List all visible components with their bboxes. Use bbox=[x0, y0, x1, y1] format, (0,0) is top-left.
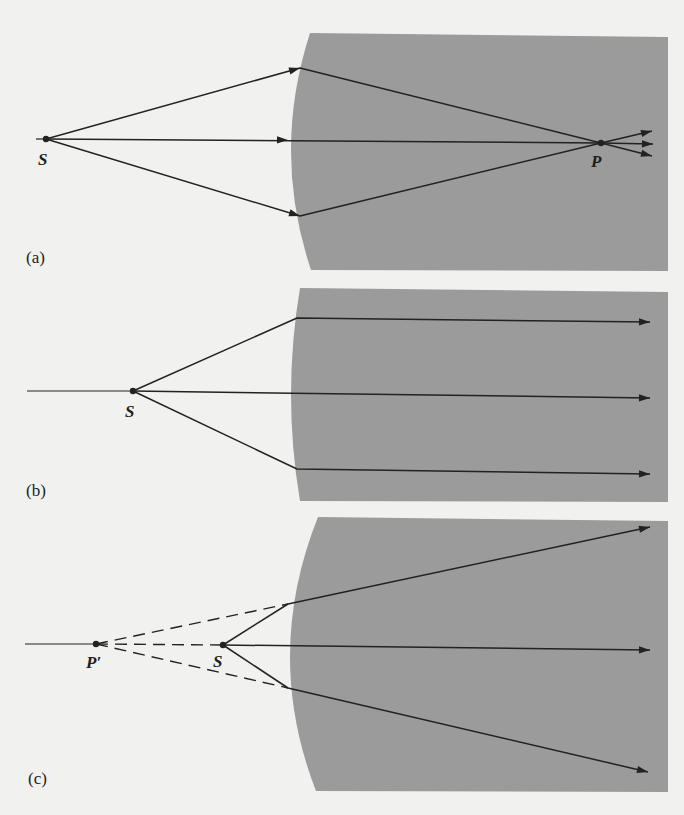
medium-region-c bbox=[290, 517, 668, 792]
refraction-figure: (a) S P (b) S (c) P′ S bbox=[0, 0, 684, 815]
point-label-p-prime-c: P′ bbox=[86, 653, 101, 673]
point-label-s-c: S bbox=[213, 652, 222, 672]
point-p-a bbox=[598, 140, 604, 146]
medium-region-a bbox=[291, 33, 668, 271]
panel-label-c: (c) bbox=[28, 769, 47, 789]
panel-label-b: (b) bbox=[26, 481, 46, 501]
point-p-prime-c bbox=[93, 641, 99, 647]
point-label-p-a: P bbox=[591, 152, 601, 172]
point-s-a bbox=[43, 136, 49, 142]
point-s-c bbox=[220, 642, 226, 648]
virtual-ray-c-2 bbox=[96, 644, 288, 688]
point-label-s-b: S bbox=[125, 402, 134, 422]
arrowhead-icon bbox=[277, 136, 288, 143]
virtual-ray-c-0 bbox=[96, 604, 288, 644]
point-label-s-a: S bbox=[38, 150, 47, 170]
arrowhead-icon bbox=[288, 67, 300, 74]
ray-diagram-canvas bbox=[0, 0, 684, 815]
point-s-b bbox=[130, 388, 136, 394]
panel-label-a: (a) bbox=[26, 248, 45, 268]
virtual-ray-c-1 bbox=[96, 644, 223, 645]
